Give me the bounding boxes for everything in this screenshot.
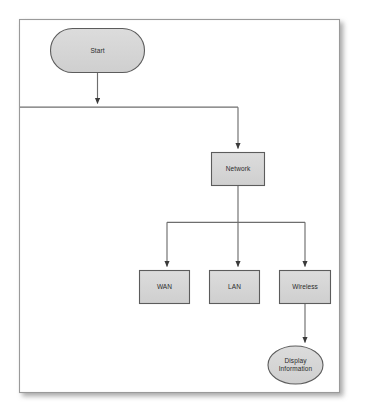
node-wireless[interactable] (280, 271, 331, 304)
node-network[interactable] (212, 153, 265, 186)
flowchart-graphics (0, 0, 370, 418)
node-wan[interactable] (140, 271, 190, 304)
diagram-frame (20, 20, 340, 393)
node-display-information[interactable] (268, 346, 323, 384)
node-lan[interactable] (210, 271, 260, 304)
node-start[interactable] (51, 29, 145, 73)
flowchart-canvas: Start Network WAN LAN Wireless Display I… (0, 0, 370, 418)
